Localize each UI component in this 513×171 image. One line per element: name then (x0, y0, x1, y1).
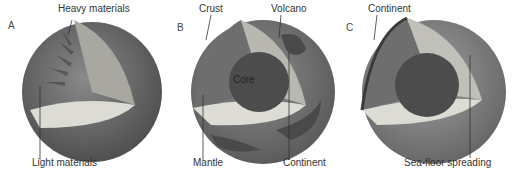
label-continent: Continent (368, 4, 411, 14)
earth-cutaway-a (0, 0, 171, 171)
label-light-materials: Light materials (32, 158, 97, 168)
panel-b: B Crust Volcano Core Mantle Continent (171, 0, 342, 171)
panel-letter: B (177, 22, 184, 33)
label-core: Core (233, 75, 255, 85)
panel-letter: C (346, 22, 353, 33)
label-heavy-materials: Heavy materials (58, 4, 130, 14)
label-volcano: Volcano (271, 4, 307, 14)
earth-cutaway-c (342, 0, 513, 171)
panel-letter: A (8, 20, 15, 31)
earth-cutaway-b (171, 0, 342, 171)
panel-a: A Heavy materials Light materials (0, 0, 171, 171)
label-crust: Crust (199, 4, 223, 14)
panel-c: C Continent Sea-floor spreading (342, 0, 513, 171)
label-continent: Continent (283, 158, 326, 168)
label-mantle: Mantle (193, 158, 223, 168)
label-sea-floor-spreading: Sea-floor spreading (404, 158, 491, 168)
